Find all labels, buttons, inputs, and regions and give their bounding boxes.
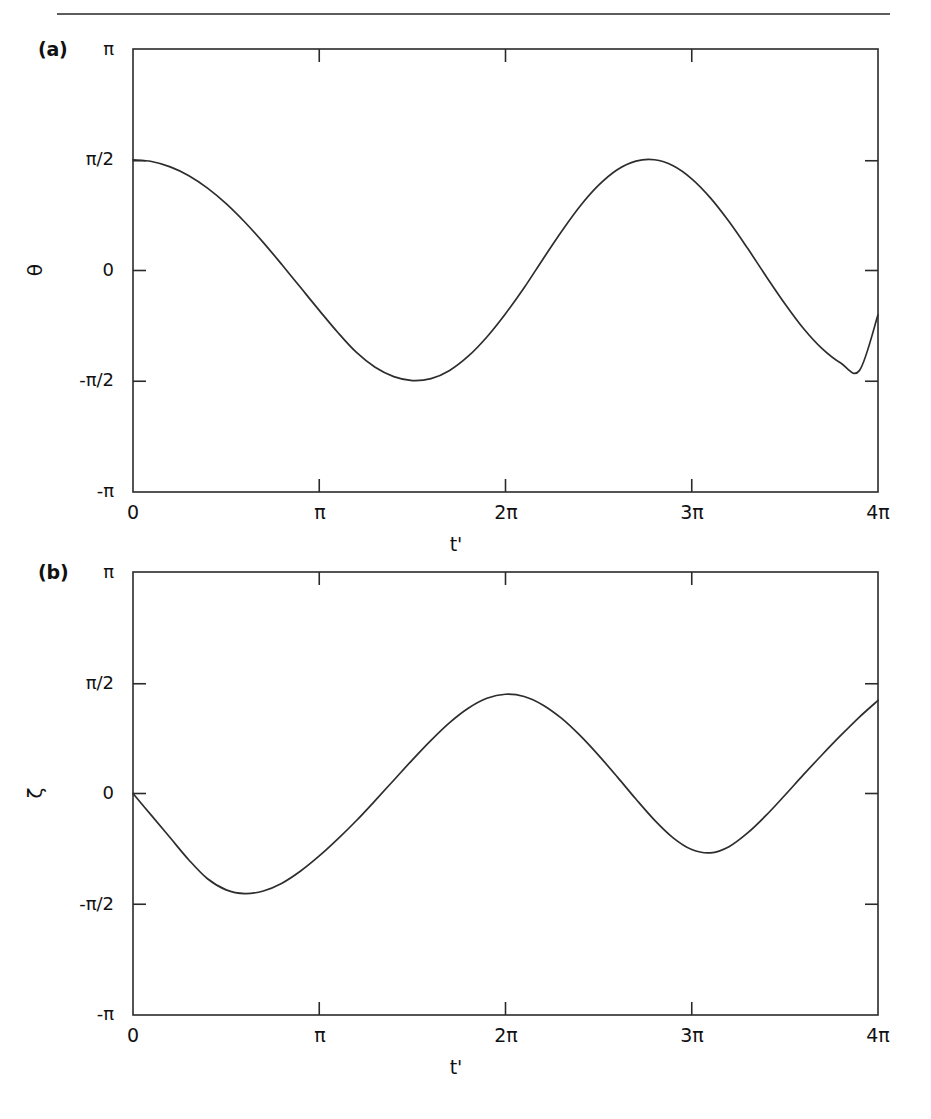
panel-b-axes-frame	[133, 572, 878, 1015]
panel-b-plot-area	[0, 0, 931, 1119]
panel-b-curve-zeta	[133, 694, 878, 893]
panel-b-tick-marks	[133, 572, 878, 1015]
figure-two-panel-plot: (a) θ π π/2 0 -π/2 -π 0 π 2π 3π 4π t'	[0, 0, 931, 1119]
